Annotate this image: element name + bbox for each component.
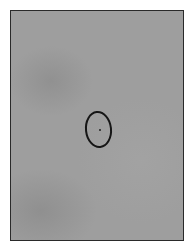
photo-frame	[10, 10, 184, 241]
center-dot	[99, 129, 101, 131]
